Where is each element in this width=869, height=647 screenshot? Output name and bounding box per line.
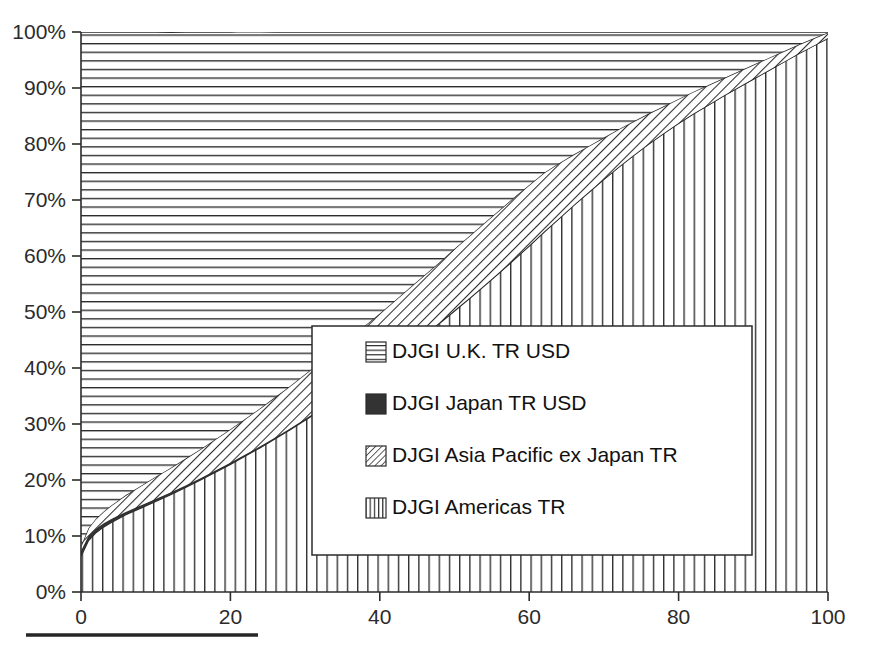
y-tick-label: 20% — [24, 468, 66, 491]
legend-label[interactable]: DJGI Japan TR USD — [392, 391, 587, 414]
y-tick-label: 80% — [24, 132, 66, 155]
y-tick-label: 0% — [36, 580, 66, 603]
x-tick-label: 60 — [518, 605, 541, 628]
legend-label[interactable]: DJGI Americas TR — [392, 495, 565, 518]
y-tick-label: 60% — [24, 244, 66, 267]
x-tick-label: 80 — [667, 605, 690, 628]
legend-swatch-horizontal-lines — [366, 342, 386, 362]
y-tick-label: 100% — [12, 20, 66, 43]
y-tick-label: 10% — [24, 524, 66, 547]
legend-label[interactable]: DJGI U.K. TR USD — [392, 339, 570, 362]
x-tick-label: 0 — [75, 605, 87, 628]
y-tick-label: 50% — [24, 300, 66, 323]
legend-swatch-vertical-lines — [366, 498, 386, 518]
y-tick-label: 90% — [24, 76, 66, 99]
y-tick-label: 40% — [24, 356, 66, 379]
legend-swatch-solid-dark — [366, 394, 386, 414]
x-tick-label: 20 — [219, 605, 242, 628]
chart-container: 0%10%20%30%40%50%60%70%80%90%100% 020406… — [0, 0, 869, 647]
x-tick-label: 100 — [810, 605, 845, 628]
x-tick-label: 40 — [368, 605, 391, 628]
y-tick-label: 30% — [24, 412, 66, 435]
legend-swatch-diagonal-hatch — [366, 446, 386, 466]
chart-legend[interactable]: DJGI U.K. TR USDDJGI Japan TR USDDJGI As… — [312, 326, 752, 555]
stacked-area-chart: 0%10%20%30%40%50%60%70%80%90%100% 020406… — [0, 0, 869, 647]
legend-label[interactable]: DJGI Asia Pacific ex Japan TR — [392, 443, 678, 466]
y-tick-label: 70% — [24, 188, 66, 211]
